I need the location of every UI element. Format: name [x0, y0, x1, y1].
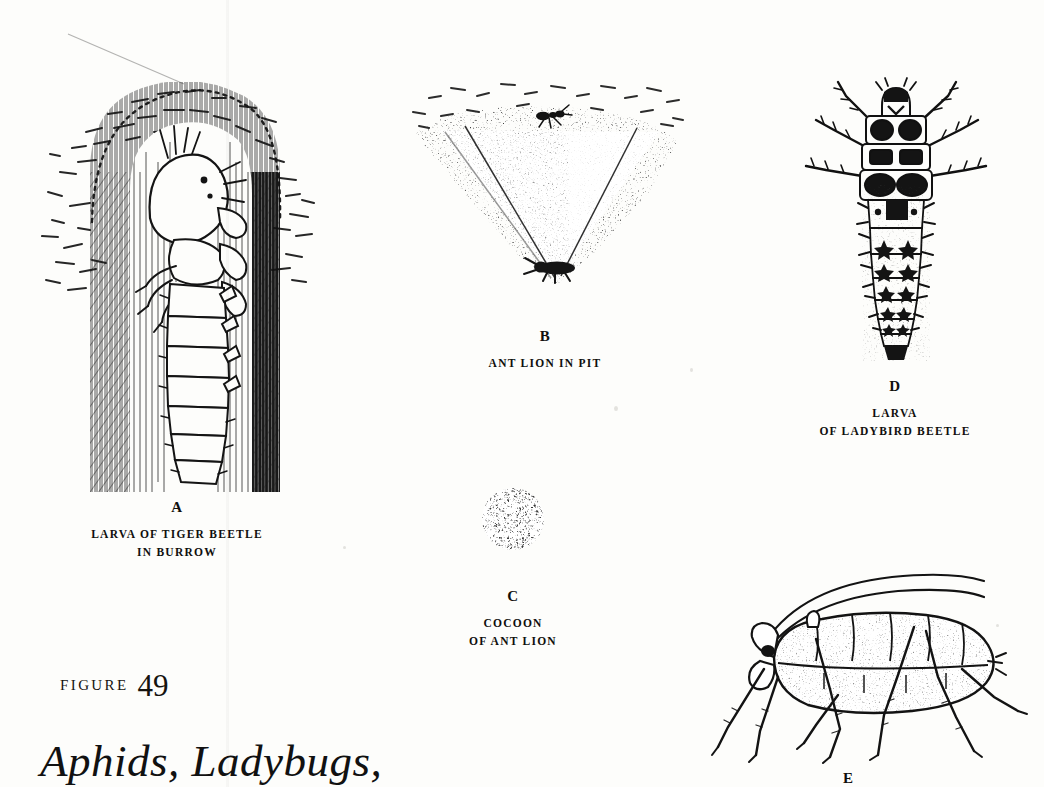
- caption-panel-b: B ANT LION IN PIT: [405, 325, 685, 373]
- caption-letter-e: E: [843, 770, 854, 787]
- caption-text-b: ANT LION IN PIT: [405, 355, 685, 373]
- caption-text-a: LARVA OF TIGER BEETLE IN BURROW: [37, 526, 317, 562]
- figure-number: 49: [138, 668, 169, 703]
- caption-text-c: COCOON OF ANT LION: [413, 615, 613, 651]
- illustration-tiger-beetle-larva-in-burrow: [34, 22, 324, 492]
- paper-speck: [690, 368, 693, 372]
- caption-panel-c: C COCOON OF ANT LION: [413, 585, 613, 651]
- caption-letter-c: C: [413, 585, 613, 608]
- caption-letter-d: D: [775, 375, 1015, 398]
- figure-plate-page: A LARVA OF TIGER BEETLE IN BURROW: [0, 0, 1044, 787]
- caption-panel-a: A LARVA OF TIGER BEETLE IN BURROW: [37, 496, 317, 562]
- figure-number-label: FIGURE49: [60, 668, 169, 704]
- page-fold-line-secondary: [228, 0, 229, 787]
- caption-letter-b: B: [405, 325, 685, 348]
- paper-speck: [614, 406, 618, 411]
- caption-letter-a: A: [37, 496, 317, 519]
- paper-speck: [343, 546, 346, 549]
- illustration-ladybird-beetle-larva: [798, 76, 994, 361]
- figure-word: FIGURE: [60, 677, 129, 693]
- figure-title: Aphids, Ladybugs,: [40, 735, 382, 787]
- caption-text-d: LARVA OF LADYBIRD BEETLE: [775, 405, 1015, 441]
- paper-speck: [996, 624, 999, 627]
- illustration-aphid: [712, 565, 1044, 775]
- illustration-cocoon-of-ant-lion: [478, 484, 548, 556]
- illustration-ant-lion-in-pit: [405, 72, 685, 312]
- caption-panel-d: D LARVA OF LADYBIRD BEETLE: [775, 375, 1015, 441]
